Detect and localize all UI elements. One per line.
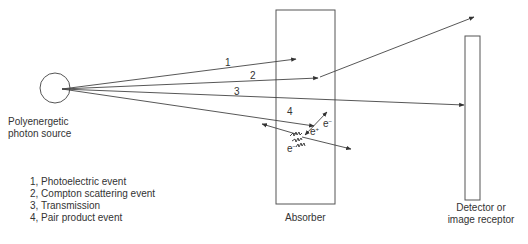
ray-2-label: 2 <box>250 70 256 81</box>
detector-plate <box>465 36 480 200</box>
source-caption-line1: Polyenergetic <box>8 116 71 128</box>
source-caption-line2: photon source <box>8 128 71 140</box>
ray-3-transmission <box>62 89 464 105</box>
source-caption: Polyenergetic photon source <box>8 116 71 140</box>
ray-2-compton-incident <box>62 78 318 89</box>
ray-1-label: 1 <box>225 57 231 68</box>
electron-label-lower: e− <box>287 143 297 154</box>
absorber-block <box>276 10 335 204</box>
ray-2-compton-scattered <box>320 17 474 77</box>
legend: 1, Photoelectric event 2, Compton scatte… <box>30 176 155 224</box>
ray-3-label: 3 <box>234 86 240 97</box>
photon-source-circle <box>40 73 70 103</box>
legend-item: 1, Photoelectric event <box>30 176 155 188</box>
annihilation-photon-left <box>262 124 296 134</box>
legend-item: 2, Compton scattering event <box>30 188 155 200</box>
ray-4-label: 4 <box>287 106 293 117</box>
detector-caption-line1: Detector or <box>441 202 521 214</box>
annihilation-photon-right <box>302 137 351 149</box>
absorber-caption: Absorber <box>285 212 326 224</box>
electron-label-upper: e− <box>323 118 333 129</box>
positron-label: e+ <box>310 126 320 137</box>
detector-caption-line2: image receptor <box>441 214 521 226</box>
legend-item: 3, Transmission <box>30 200 155 212</box>
detector-caption: Detector or image receptor <box>441 202 521 226</box>
legend-item: 4, Pair product event <box>30 212 155 224</box>
ray-1-photoelectric <box>62 59 296 89</box>
